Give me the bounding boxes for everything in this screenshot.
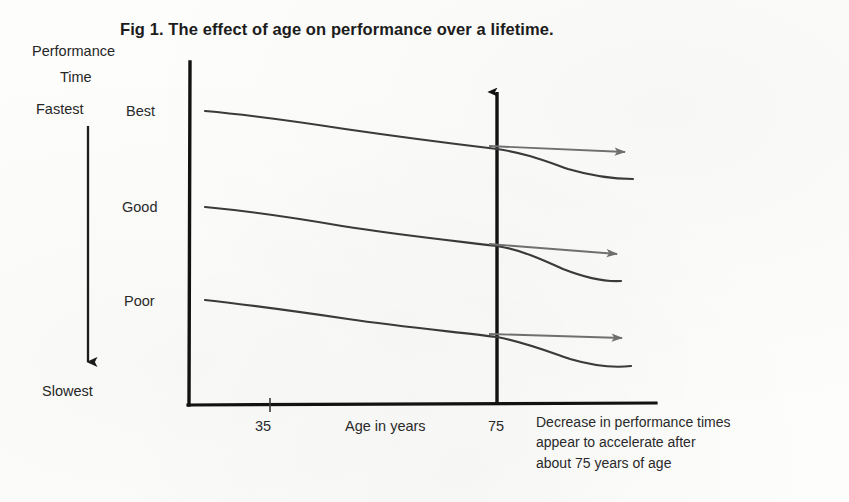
y-axis-line — [189, 62, 190, 405]
y-axis-header-performance: Performance — [32, 43, 115, 60]
y-category-label-good: Good — [122, 199, 157, 216]
x-tick-label-75: 75 — [488, 418, 504, 435]
x-axis-line — [188, 403, 656, 405]
curve-poor — [205, 300, 631, 367]
figure-page: Fig 1. The effect of age on performance … — [0, 0, 849, 502]
y-axis-extreme-slowest: Slowest — [42, 383, 93, 400]
chart-annotation: Decrease in performance times appear to … — [536, 412, 836, 473]
annotation-line-2: appear to accelerate after — [536, 432, 836, 452]
trend-arrow-poor — [489, 334, 622, 338]
y-axis-header-time: Time — [60, 69, 92, 86]
y-axis-extreme-fastest: Fastest — [36, 101, 84, 118]
y-category-label-best: Best — [126, 103, 155, 120]
curve-best — [205, 111, 633, 179]
x-tick-label-35: 35 — [255, 418, 271, 435]
annotation-line-1: Decrease in performance times — [536, 412, 836, 432]
y-category-label-poor: Poor — [124, 293, 155, 310]
annotation-line-3: about 75 years of age — [536, 453, 836, 473]
x-axis-title: Age in years — [345, 418, 426, 435]
curve-good — [205, 207, 621, 281]
